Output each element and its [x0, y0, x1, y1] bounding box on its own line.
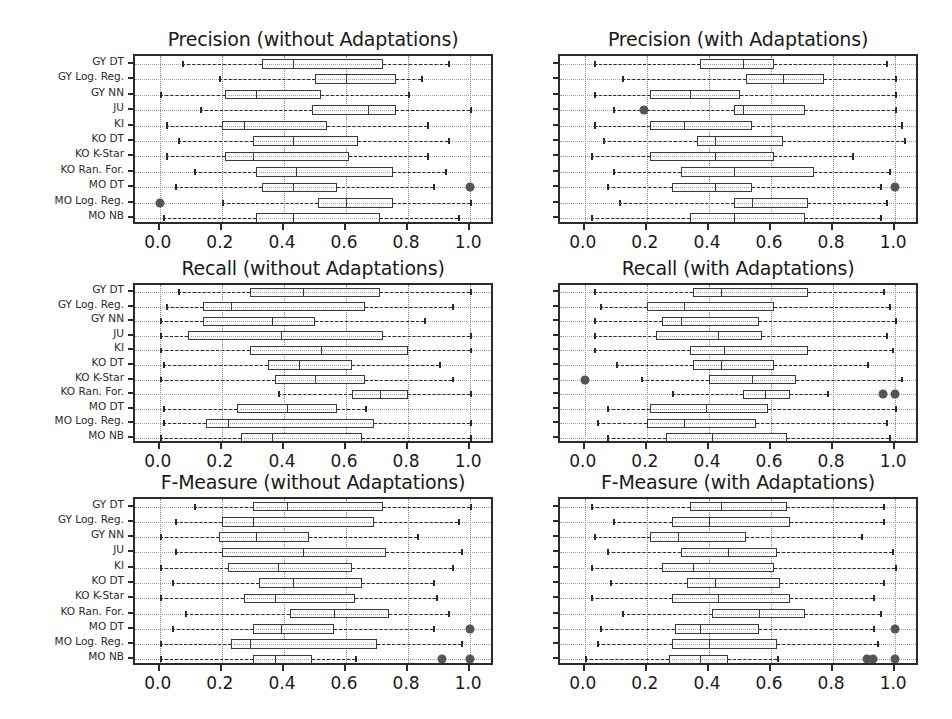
whisker-low	[591, 507, 690, 508]
ylabel-gy-log-reg-: GY Log. Reg.	[58, 299, 124, 310]
xtick	[645, 443, 647, 449]
ytick	[553, 520, 559, 522]
cap-high	[470, 107, 472, 113]
box-texture	[737, 203, 805, 204]
cap-high	[458, 215, 460, 221]
box-texture	[665, 568, 771, 569]
xtick	[282, 443, 284, 449]
box-texture	[231, 568, 349, 569]
box-texture	[665, 321, 755, 322]
cap-low	[607, 184, 609, 190]
whisker-high	[396, 79, 421, 80]
cap-low	[160, 595, 162, 601]
cap-low	[166, 153, 168, 159]
ylabel-mo-log-reg-: MO Log. Reg.	[55, 195, 124, 206]
whisker-low	[594, 64, 700, 65]
xtick	[583, 665, 585, 671]
whisker-high	[362, 583, 433, 584]
ytick	[553, 185, 559, 187]
ytick	[553, 596, 559, 598]
whisker-high	[768, 409, 895, 410]
xtick-label-0.4: 0.4	[252, 673, 312, 693]
whisker-high	[352, 365, 439, 366]
whisker-low	[194, 172, 256, 173]
ytick	[128, 505, 134, 507]
whisker-low	[163, 365, 269, 366]
panel-title-precision-without: Precision (without Adaptations)	[73, 28, 553, 50]
median-line	[718, 331, 719, 340]
box-texture	[653, 95, 737, 96]
xtick	[893, 665, 895, 671]
cap-high	[883, 519, 885, 525]
ylabel-ko-ran-for-: KO Ran. For.	[60, 164, 124, 175]
ytick	[553, 348, 559, 350]
gridline-x-1.0	[470, 499, 472, 663]
ylabel-mo-nb: MO NB	[88, 210, 124, 221]
ytick	[553, 642, 559, 644]
cap-high	[470, 333, 472, 339]
cap-low	[641, 377, 643, 383]
whisker-high	[824, 79, 895, 80]
xtick	[893, 443, 895, 449]
outlier-marker	[891, 183, 900, 192]
box-texture	[293, 614, 386, 615]
whisker-high	[380, 292, 470, 293]
plot-area-recall-with	[558, 283, 918, 443]
cap-low	[163, 215, 165, 221]
whisker-low	[219, 79, 315, 80]
cap-high	[861, 534, 863, 540]
box-texture	[675, 187, 750, 188]
whisker-low	[172, 629, 253, 630]
xtick	[769, 224, 771, 230]
xtick-label-0.6: 0.6	[314, 232, 374, 252]
xtick-label-0.0: 0.0	[128, 232, 188, 252]
plot-area-precision-with	[558, 54, 918, 224]
median-line	[293, 213, 294, 223]
ylabel-ko-ran-for-: KO Ran. For.	[60, 386, 124, 397]
median-line	[228, 419, 229, 428]
ytick	[128, 642, 134, 644]
plot-area-fmeasure-without	[133, 497, 493, 665]
ylabel-gy-dt: GY DT	[92, 499, 124, 510]
ylabel-mo-nb: MO NB	[88, 651, 124, 662]
ytick	[128, 612, 134, 614]
box-texture	[256, 507, 380, 508]
whisker-high	[774, 307, 889, 308]
xtick	[468, 443, 470, 449]
gridline-x-0.0	[160, 285, 162, 441]
whisker-high	[408, 350, 470, 351]
ytick	[553, 154, 559, 156]
outlier-marker	[891, 390, 900, 399]
median-line	[693, 563, 694, 572]
cap-high	[901, 377, 903, 383]
cap-high	[889, 169, 891, 175]
median-line	[728, 548, 729, 557]
box-texture	[669, 438, 784, 439]
cap-low	[594, 534, 596, 540]
ylabel-mo-dt: MO DT	[89, 621, 124, 632]
box-texture	[653, 156, 771, 157]
whisker-high	[327, 126, 426, 127]
cap-high	[433, 184, 435, 190]
whisker-high	[774, 156, 852, 157]
ytick	[128, 290, 134, 292]
cap-low	[594, 289, 596, 295]
box-texture	[253, 292, 377, 293]
ylabel-ki: KI	[114, 342, 124, 353]
panel-title-recall-with: Recall (with Adaptations)	[498, 257, 952, 279]
xtick-label-0.8: 0.8	[801, 451, 861, 471]
cap-low	[613, 169, 615, 175]
whisker-high	[334, 629, 433, 630]
cap-high	[365, 406, 367, 412]
whisker-high	[740, 95, 895, 96]
whisker-high	[393, 203, 471, 204]
whisker-high	[777, 552, 892, 553]
cap-low	[160, 92, 162, 98]
whisker-high	[777, 644, 876, 645]
cap-high	[883, 504, 885, 510]
cap-high	[895, 565, 897, 571]
cap-low	[160, 318, 162, 324]
ytick	[553, 566, 559, 568]
xtick	[220, 224, 222, 230]
whisker-low	[160, 644, 231, 645]
